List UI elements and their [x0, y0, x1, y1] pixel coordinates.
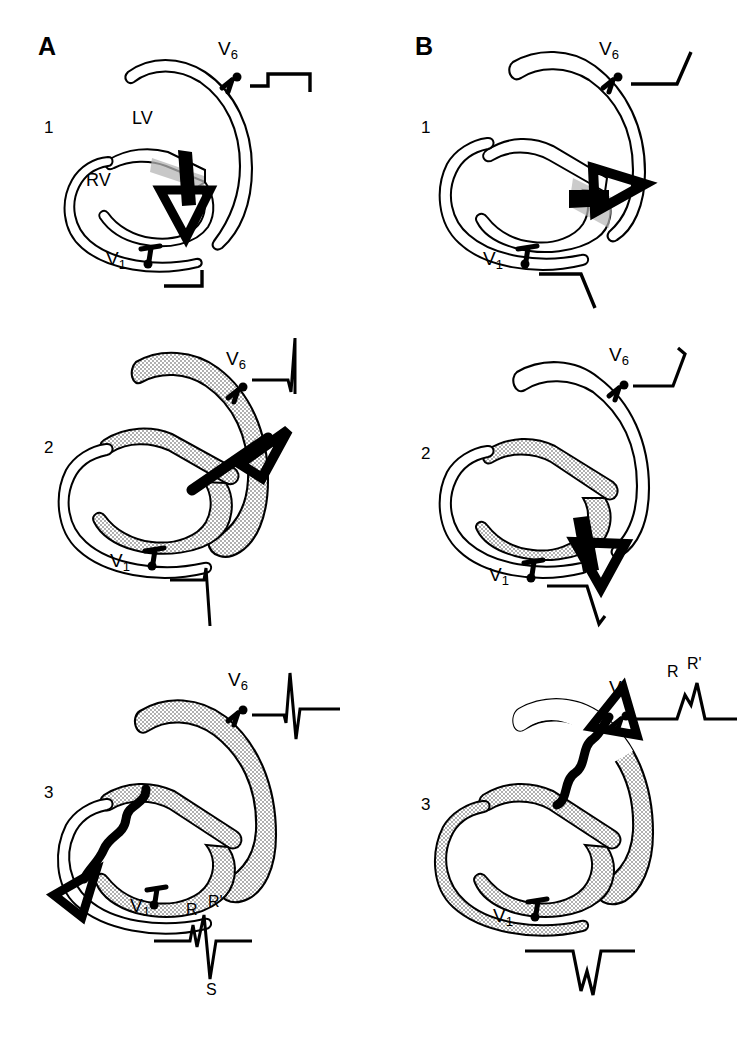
- ecg-waveform-v1-b3: [523, 937, 643, 1015]
- panel-a-row-2: 2 V6: [0, 320, 376, 672]
- lead-label-v1-a1: V1: [106, 248, 126, 270]
- ecg-waveform-v6-a2: [250, 334, 340, 406]
- electrode-icon-v1-a3: [142, 883, 172, 915]
- ecg-waveform-v6-b2: [631, 344, 723, 410]
- panel-b-row-1: B 1 V6 V1: [377, 0, 753, 352]
- lead-label-v1-b3: V1: [493, 905, 513, 927]
- electrode-icon-v6-b1: [599, 68, 629, 98]
- wave-annotation-rprime-a3: R': [208, 893, 223, 911]
- lead-label-v6-a1: V6: [218, 38, 238, 60]
- ecg-waveform-v6-b1: [629, 44, 721, 100]
- lead-label-v6-b3: V6: [609, 677, 629, 699]
- ecg-waveform-v1-b2: [545, 570, 637, 640]
- ecg-waveform-v1-a3: [152, 913, 262, 993]
- panel-b-row-2: 2 V6: [377, 320, 753, 672]
- ecg-waveform-v6-b3: [633, 671, 743, 737]
- panel-b-row-3: 3 V: [377, 655, 753, 1055]
- lead-label-v6-b1: V6: [599, 38, 619, 60]
- ecg-waveform-v1-a1: [162, 258, 242, 298]
- electrode-icon-v1-a2: [140, 544, 170, 576]
- ecg-waveform-v6-a3: [250, 669, 350, 749]
- ecg-waveform-v1-a2: [168, 548, 248, 634]
- ecg-waveform-v6-a1: [248, 58, 340, 104]
- panel-a-row-1: A 1 LV RV V6: [0, 0, 376, 352]
- panel-a-row-3: 3 V6: [0, 655, 376, 1055]
- lead-label-v1-a2: V1: [110, 550, 130, 572]
- electrode-icon-v1-b3: [523, 895, 553, 927]
- lead-label-v6-a3: V6: [228, 669, 248, 691]
- lead-label-v1-b2: V1: [489, 564, 509, 586]
- electrode-icon-v6-a1: [218, 68, 248, 98]
- lead-label-v6-a2: V6: [226, 348, 246, 370]
- figure-root: A 1 LV RV V6: [0, 0, 753, 1057]
- lead-label-v1-b1: V1: [483, 248, 503, 270]
- ecg-waveform-v1-b1: [537, 260, 623, 320]
- heart-outline-a1: [0, 0, 376, 352]
- lead-label-v6-b2: V6: [609, 344, 629, 366]
